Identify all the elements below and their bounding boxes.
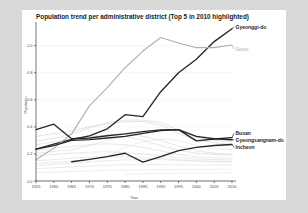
series-line-other-10 — [125, 173, 232, 175]
series-line-other-8 — [36, 164, 232, 168]
x-tick-label-8: 1995 — [174, 184, 184, 189]
x-tick-label-3: 1970 — [85, 184, 95, 189]
series-leader-Seoul — [232, 45, 234, 49]
x-tick-label-10: 2005 — [210, 184, 220, 189]
x-tick-label-11: 2010 — [228, 184, 238, 189]
screenshot-root: 0.00.20.40.60.81.01955196019651970197519… — [0, 0, 308, 213]
chart-figure: 0.00.20.40.60.81.01955196019651970197519… — [0, 0, 308, 213]
x-tick-label-4: 1975 — [103, 184, 113, 189]
x-tick-label-1: 1960 — [49, 184, 59, 189]
series-labels-layer[interactable]: Gyeonggi-doSeoulBusanGyeongsangnam-doInc… — [232, 24, 284, 151]
series-line-other-4 — [36, 144, 232, 158]
y-tick-label-4: 0.8 — [27, 70, 33, 75]
series-line-Gyeonggi-do[interactable] — [36, 29, 232, 149]
y-tick-label-5: 1.0 — [27, 43, 33, 48]
x-tick-label-6: 1985 — [138, 184, 148, 189]
series-label-Gyeongsangnam-do[interactable]: Gyeongsangnam-do — [236, 137, 284, 143]
series-label-Incheon[interactable]: Incheon — [236, 144, 255, 150]
series-line-other-9 — [36, 169, 232, 172]
y-tick-label-0: 0.0 — [27, 179, 33, 184]
series-leader-Incheon — [232, 144, 234, 147]
series-leader-Busan — [232, 133, 234, 137]
x-tick-label-7: 1990 — [156, 184, 166, 189]
y-axis-title: Population — [24, 97, 28, 114]
x-tick-label-2: 1965 — [67, 184, 77, 189]
series-label-Seoul[interactable]: Seoul — [236, 46, 249, 52]
series-label-Gyeonggi-do[interactable]: Gyeonggi-do — [236, 24, 267, 30]
y-tick-label-2: 0.4 — [27, 124, 33, 129]
chart-title: Population trend per administrative dist… — [36, 13, 249, 21]
highlighted-series-layer[interactable] — [36, 29, 232, 162]
x-tick-label-5: 1980 — [121, 184, 131, 189]
y-tick-label-1: 0.2 — [27, 151, 33, 156]
series-leader-Gyeonggi-do — [232, 27, 234, 29]
series-label-Busan[interactable]: Busan — [236, 130, 251, 136]
x-axis-title: Year — [130, 196, 138, 200]
x-tick-label-9: 2000 — [192, 184, 202, 189]
population-trend-line-chart[interactable]: 0.00.20.40.60.81.01955196019651970197519… — [0, 0, 308, 213]
x-tick-label-0: 1955 — [32, 184, 42, 189]
